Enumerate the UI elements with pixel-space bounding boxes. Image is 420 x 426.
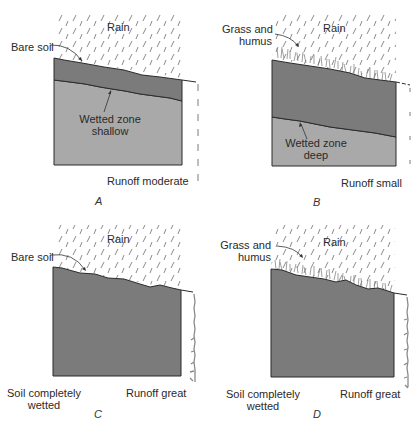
grass-humus-label-b-line2: humus bbox=[229, 35, 272, 47]
runoff-stream-d bbox=[404, 297, 408, 388]
grass-humus-label-b: Grass and humus bbox=[229, 23, 272, 47]
runoff-label-b: Runoff small bbox=[341, 177, 402, 189]
panel-c bbox=[50, 225, 195, 382]
wetted-zone-label-b-line1: Wetted zone bbox=[276, 137, 356, 149]
runoff-label-c: Runoff great bbox=[126, 387, 186, 399]
rain-label-b: Rain bbox=[323, 22, 346, 34]
surface-runoff-edge-d bbox=[394, 293, 407, 295]
diagram-canvas bbox=[0, 0, 420, 426]
rain-label-d: Rain bbox=[323, 236, 346, 248]
surface-runoff-edge-a bbox=[182, 80, 196, 82]
surface-runoff-edge-b bbox=[396, 82, 410, 85]
runoff-stream-c bbox=[190, 294, 195, 382]
wetted-zone-label-a: Wetted zone shallow bbox=[70, 113, 150, 137]
grass-humus-label-b-line1: Grass and bbox=[222, 23, 272, 35]
runoff-label-a: Runoff moderate bbox=[107, 175, 189, 187]
wetted-zone-label-b-line2: deep bbox=[276, 149, 356, 161]
wetted-zone-label-a-line2: shallow bbox=[70, 125, 150, 137]
caption-a: A bbox=[95, 195, 102, 207]
grass-humus-label-d: Grass and humus bbox=[224, 239, 271, 263]
caption-b: B bbox=[313, 196, 320, 208]
caption-c: C bbox=[94, 408, 102, 420]
soil-wetted-label-c: Soil completely wetted bbox=[6, 387, 82, 411]
surface-runoff-edge-c bbox=[181, 290, 193, 292]
rain-label-a: Rain bbox=[107, 21, 130, 33]
panel-d bbox=[271, 225, 408, 388]
soil-wetted-label-d-line1: Soil completely bbox=[225, 388, 301, 400]
bare-soil-label-a: Bare soil bbox=[11, 41, 54, 53]
soil-wetted-label-d: Soil completely wetted bbox=[225, 388, 301, 412]
grass-humus-label-d-line2: humus bbox=[224, 251, 271, 263]
wetted-zone-label-a-line1: Wetted zone bbox=[70, 113, 150, 125]
grass-humus-label-d-line1: Grass and bbox=[220, 239, 271, 251]
soil-wetted-label-d-line2: wetted bbox=[225, 400, 301, 412]
runoff-label-d: Runoff great bbox=[340, 388, 400, 400]
panel-a bbox=[50, 14, 198, 183]
bare-soil-label-c: Bare soil bbox=[11, 251, 54, 263]
soil-wetted-label-c-line2: wetted bbox=[6, 399, 82, 411]
wetted-zone-label-b: Wetted zone deep bbox=[276, 137, 356, 161]
soil-wetted-label-c-line1: Soil completely bbox=[6, 387, 82, 399]
rain-label-c: Rain bbox=[107, 233, 130, 245]
caption-d: D bbox=[313, 408, 321, 420]
